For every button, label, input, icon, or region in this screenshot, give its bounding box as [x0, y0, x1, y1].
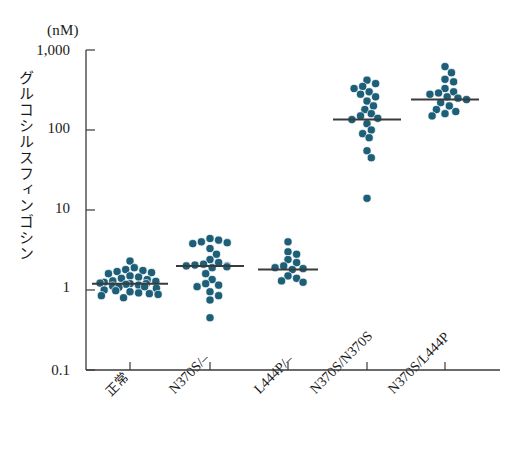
data-point	[428, 112, 436, 120]
data-point	[142, 280, 150, 288]
data-point	[104, 270, 112, 278]
data-point	[284, 272, 292, 280]
x-tick-label-n370s-n370s: N370S/N370S	[307, 328, 376, 397]
x-tick-label-n370s-l444p: N370S/L444P	[385, 329, 453, 397]
data-point	[271, 264, 279, 272]
data-point	[356, 90, 364, 98]
data-point	[441, 75, 449, 83]
data-point	[365, 88, 373, 96]
y-tick-label-1: 1	[8, 279, 70, 296]
data-point	[223, 263, 231, 271]
y-axis-title: グルコシルスフィンゴシン	[6, 70, 32, 262]
data-point	[288, 265, 296, 273]
y-axis-unit-label: (nM)	[47, 22, 79, 39]
data-point	[284, 238, 292, 246]
data-point	[147, 269, 155, 277]
data-point	[139, 266, 147, 274]
data-point	[208, 275, 216, 283]
data-point	[96, 279, 104, 287]
data-point	[363, 97, 371, 105]
data-point	[374, 114, 382, 122]
series-group-0	[96, 257, 162, 302]
data-point	[109, 277, 117, 285]
data-point	[135, 289, 143, 297]
series-group-4	[426, 63, 471, 121]
data-point	[112, 287, 120, 295]
data-point	[215, 292, 223, 300]
data-point	[363, 147, 371, 155]
data-point	[145, 290, 153, 298]
data-point	[350, 84, 358, 92]
data-point	[202, 280, 210, 288]
data-point	[284, 255, 292, 263]
data-point	[97, 292, 105, 300]
data-point	[299, 265, 307, 273]
data-point	[126, 280, 134, 288]
data-point	[206, 244, 214, 252]
data-point	[348, 115, 356, 123]
data-point	[280, 262, 288, 270]
data-point	[363, 120, 371, 128]
data-point	[365, 134, 373, 142]
x-tick-label-n370s-null: N370S/–	[166, 351, 213, 398]
data-point	[452, 107, 460, 115]
data-point	[197, 238, 205, 246]
data-point	[206, 234, 214, 242]
data-point	[426, 90, 434, 98]
data-point	[284, 248, 292, 256]
data-point	[450, 78, 458, 86]
data-point	[293, 250, 301, 258]
x-tick-label-l444p-null: L444P/–	[251, 352, 296, 397]
data-point	[135, 281, 143, 289]
series-group-1	[182, 234, 231, 321]
data-point	[445, 102, 453, 110]
series-group-2	[271, 238, 307, 287]
data-point	[441, 84, 449, 92]
data-point	[359, 130, 367, 138]
y-tick-label-100: 100	[8, 120, 70, 137]
data-point	[363, 76, 371, 84]
data-point	[215, 259, 223, 267]
data-point	[135, 273, 143, 281]
data-point	[441, 63, 449, 71]
data-point	[293, 274, 301, 282]
data-point	[443, 93, 451, 101]
data-point	[141, 283, 149, 291]
data-point	[154, 290, 162, 298]
data-point	[277, 277, 285, 285]
data-point	[206, 296, 214, 304]
data-point	[152, 284, 160, 292]
data-point	[462, 95, 470, 103]
data-point	[367, 110, 375, 118]
data-point	[206, 255, 214, 263]
scatter-plot-figure: (nM) グルコシルスフィンゴシン 1,000 100 10 1 0.1 正常 …	[0, 0, 506, 458]
y-tick-label-10: 10	[8, 200, 70, 217]
data-point	[191, 261, 199, 269]
data-point	[208, 264, 216, 272]
data-point	[356, 112, 364, 120]
data-point	[223, 262, 231, 270]
x-tick-label-normal: 正常	[100, 368, 132, 400]
data-point	[299, 278, 307, 286]
data-point	[126, 257, 134, 265]
data-point	[193, 283, 201, 291]
data-point	[206, 314, 214, 322]
series-group-3	[348, 76, 382, 202]
data-point	[100, 286, 108, 294]
data-point	[152, 277, 160, 285]
data-point	[212, 250, 220, 258]
data-point	[369, 102, 377, 110]
data-point	[119, 294, 127, 302]
y-tick-label-1000: 1,000	[8, 42, 70, 59]
data-point	[189, 240, 197, 248]
data-point	[293, 259, 301, 267]
data-point	[454, 94, 462, 102]
plot-canvas	[0, 0, 506, 458]
data-point	[199, 260, 207, 268]
data-point	[447, 69, 455, 77]
data-point	[143, 275, 151, 283]
data-point	[223, 239, 231, 247]
data-point	[215, 236, 223, 244]
data-point	[206, 288, 214, 296]
data-point	[113, 267, 121, 275]
